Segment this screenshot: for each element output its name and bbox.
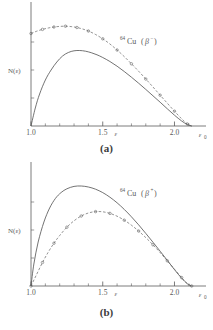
data-point-marker	[66, 226, 69, 229]
axes	[31, 162, 206, 286]
data-point-marker	[41, 261, 44, 264]
x-axis-ticks	[31, 282, 189, 287]
nuclide-symbol: Cu	[127, 37, 136, 46]
series-curve	[31, 26, 192, 126]
x-tick-label: 1.0	[26, 128, 36, 137]
data-series-measured-corrected-spectrum	[30, 210, 193, 287]
plot-area-a: 1.01.52.0εε0N(ε)64Cu(β−)	[0, 0, 213, 150]
decay-paren-close: )	[154, 189, 157, 198]
nuclide-mass-number: 64	[120, 35, 126, 41]
plot-area-b: 1.01.52.0εε0N(ε)64Cu(β+)	[0, 160, 213, 310]
x-tick-label: 2.0	[170, 288, 180, 297]
series-curve	[31, 211, 192, 286]
x-axis-label: ε	[114, 130, 117, 137]
panel-b-caption: (b)	[0, 306, 213, 318]
endpoint-subscript: 0	[204, 134, 207, 140]
y-axis-ticks	[31, 42, 34, 98]
endpoint-subscript: 0	[204, 294, 207, 300]
x-tick-label: 1.0	[26, 288, 36, 297]
data-series-theoretical-statistical-shape	[31, 186, 192, 286]
data-series-measured-corrected-spectrum	[30, 25, 192, 126]
y-axis-label: N(ε)	[8, 67, 21, 75]
data-series-theoretical-statistical-shape	[31, 50, 192, 126]
x-tick-label: 1.5	[98, 128, 108, 137]
x-tick-label: 1.5	[98, 288, 108, 297]
y-axis-ticks	[31, 202, 34, 258]
y-axis-label: N(ε)	[8, 227, 21, 235]
decay-beta-symbol: β	[144, 189, 149, 198]
series-curve	[31, 50, 192, 126]
endpoint-energy-label: ε0	[199, 291, 207, 300]
endpoint-epsilon: ε	[199, 131, 202, 138]
series-annotation-label: 64Cu(β+)	[120, 187, 157, 198]
data-point-marker	[130, 63, 133, 66]
x-axis-label: ε	[114, 290, 117, 297]
panel-a-caption: (a)	[0, 142, 213, 154]
axes	[31, 2, 206, 126]
decay-paren-close: )	[154, 37, 157, 46]
x-axis-ticks	[31, 122, 189, 127]
figure-panel-a: 1.01.52.0εε0N(ε)64Cu(β−)	[0, 0, 213, 165]
x-tick-labels: 1.01.52.0	[26, 128, 179, 137]
decay-beta-symbol: β	[144, 37, 149, 46]
nuclide-mass-number: 64	[120, 187, 126, 193]
endpoint-energy-label: ε0	[199, 131, 207, 140]
endpoint-epsilon: ε	[199, 291, 202, 298]
series-annotation-label: 64Cu(β−)	[120, 35, 157, 46]
series-curve	[31, 186, 192, 286]
nuclide-symbol: Cu	[127, 189, 136, 198]
decay-paren-open: (	[141, 37, 144, 46]
data-point-marker	[80, 215, 83, 218]
decay-paren-open: (	[141, 189, 144, 198]
data-point-marker	[152, 244, 155, 247]
x-tick-labels: 1.01.52.0	[26, 288, 179, 297]
x-tick-label: 2.0	[170, 128, 180, 137]
figure-panel-b: 1.01.52.0εε0N(ε)64Cu(β+)	[0, 160, 213, 330]
